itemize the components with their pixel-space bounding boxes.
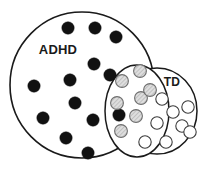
overlap-dot bbox=[111, 97, 124, 110]
adhd-only-dot bbox=[87, 114, 99, 126]
td-only-dot bbox=[160, 136, 172, 148]
td-only-dot bbox=[182, 101, 194, 113]
overlap-dot bbox=[115, 125, 128, 138]
adhd-only-dot bbox=[89, 22, 101, 34]
overlap-dot bbox=[144, 84, 157, 97]
adhd-only-dot bbox=[37, 112, 49, 124]
adhd-only-dot bbox=[64, 74, 76, 86]
adhd-only-dot bbox=[28, 80, 40, 92]
td-only-dot bbox=[184, 126, 196, 138]
td-only-dot bbox=[156, 93, 168, 105]
overlap-dot bbox=[134, 65, 147, 78]
venn-diagram-canvas: ADHDTD bbox=[0, 0, 208, 173]
adhd-only-dot bbox=[69, 97, 81, 109]
venn-diagram-figure: ADHDTD bbox=[0, 0, 208, 173]
td-only-dot bbox=[167, 106, 179, 118]
adhd-only-dot bbox=[62, 22, 74, 34]
adhd-set-label: ADHD bbox=[39, 42, 77, 57]
overlap-dot bbox=[116, 75, 129, 88]
adhd-only-dot bbox=[113, 109, 125, 121]
td-set-label: TD bbox=[164, 75, 181, 89]
overlap-dot bbox=[130, 110, 143, 123]
adhd-only-dot bbox=[104, 69, 116, 81]
td-only-dot bbox=[139, 136, 151, 148]
adhd-only-dot bbox=[82, 147, 94, 159]
adhd-only-dot bbox=[110, 31, 122, 43]
adhd-only-dot bbox=[60, 132, 72, 144]
adhd-only-dot bbox=[88, 58, 100, 70]
td-only-dot bbox=[151, 117, 163, 129]
